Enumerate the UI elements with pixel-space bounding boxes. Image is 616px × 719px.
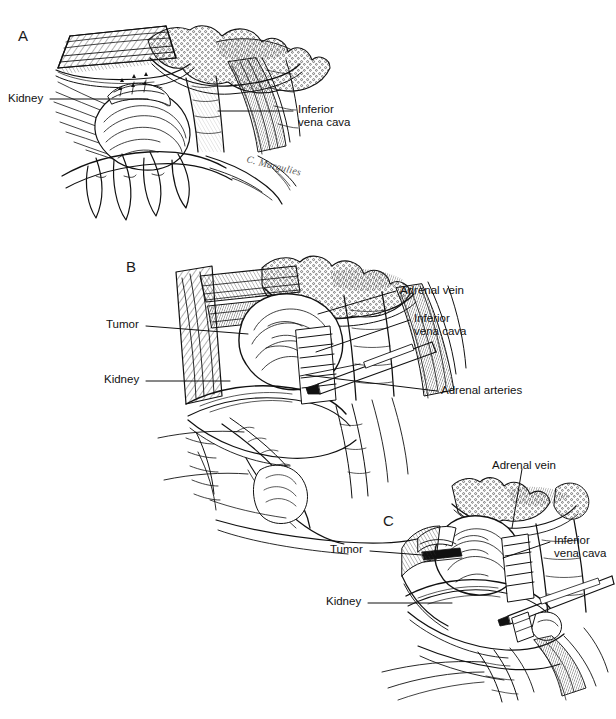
label-c-adrenal-vein: Adrenal vein: [492, 459, 556, 472]
leader-b-adrenal-vein: [318, 291, 396, 314]
label-b-tumor: Tumor: [106, 318, 139, 331]
leader-c-adrenal-vein: [512, 469, 522, 528]
figure-root: AKidneyInferior vena cavaBTumorKidneyAdr…: [0, 0, 616, 719]
panel-letter-a: A: [18, 27, 29, 44]
label-c-inferior-vena-cava: Inferior vena cava: [554, 534, 606, 560]
label-a-kidney: Kidney: [8, 92, 43, 105]
label-b-adrenal-vein: Adrenal vein: [400, 284, 464, 297]
label-a-inferior-vena-cava: Inferior vena cava: [298, 103, 350, 129]
panel-letter-b: B: [126, 258, 137, 275]
label-c-kidney: Kidney: [326, 595, 361, 608]
label-b-kidney: Kidney: [104, 373, 139, 386]
label-c-tumor: Tumor: [330, 543, 363, 556]
leader-b-inferior-vena-cava: [316, 320, 410, 352]
panel-letter-c: C: [383, 512, 394, 529]
leader-b-adrenal-arteries: [306, 375, 437, 391]
leader-b-tumor: [146, 326, 248, 334]
label-b-adrenal-arteries: Adrenal arteries: [441, 384, 522, 397]
label-b-inferior-vena-cava: Inferior vena cava: [414, 312, 466, 338]
leader-c-tumor: [370, 551, 448, 557]
leader-c-inferior-vena-cava: [503, 542, 550, 558]
